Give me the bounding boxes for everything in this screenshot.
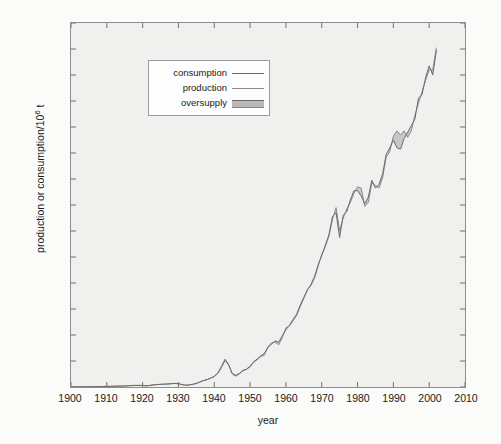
x-axis-label: year xyxy=(70,414,466,426)
legend-label-production: production xyxy=(183,82,227,93)
chart-figure: production or consumption/106 t 02468101… xyxy=(0,0,501,444)
legend-item-production: production xyxy=(153,80,264,95)
chart-legend: consumption production oversupply xyxy=(148,60,270,116)
legend-label-consumption: consumption xyxy=(173,67,227,78)
legend-label-oversupply: oversupply xyxy=(181,97,227,108)
y-axis-label-text: production or consumption/106 t xyxy=(34,105,46,253)
x-tick-label: 2010 xyxy=(442,393,490,404)
legend-swatch-production xyxy=(232,83,264,93)
legend-swatch-consumption xyxy=(232,68,264,78)
y-axis-label: production or consumption/106 t xyxy=(32,29,46,329)
legend-item-consumption: consumption xyxy=(153,65,264,80)
legend-swatch-oversupply xyxy=(232,98,264,108)
legend-item-oversupply: oversupply xyxy=(153,95,264,110)
